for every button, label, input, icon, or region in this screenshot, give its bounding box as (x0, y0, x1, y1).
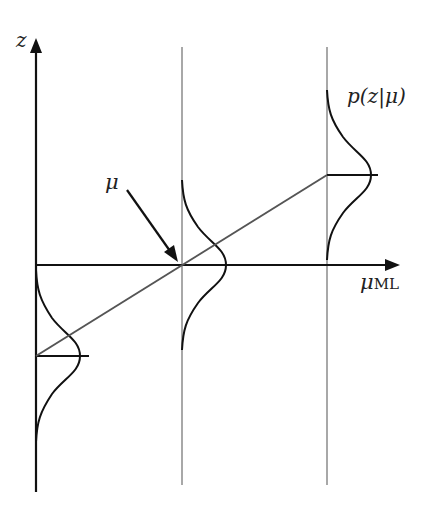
z-axis-arrowhead-icon (30, 38, 42, 53)
diagram-canvas (0, 0, 436, 510)
z-axis-label: z (16, 30, 27, 50)
mu-pointer-label: μ (105, 172, 119, 193)
mu-ml-subscript: ML (374, 275, 399, 293)
mu-pointer-arrow (127, 190, 170, 251)
mu-pointer-arrowhead-icon (164, 245, 178, 262)
mu-ml-axis-arrowhead-icon (385, 259, 400, 271)
mu-ml-axis-label: μML (360, 272, 399, 293)
mu-ml-main: μ (360, 270, 374, 294)
density-label: p(z|μ) (347, 86, 406, 106)
